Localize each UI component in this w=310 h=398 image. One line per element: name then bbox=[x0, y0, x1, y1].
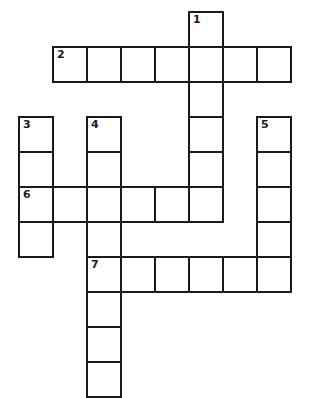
crossword-cell[interactable] bbox=[86, 326, 122, 363]
crossword-cell[interactable] bbox=[120, 186, 156, 223]
crossword-cell[interactable] bbox=[188, 186, 224, 223]
crossword-cell[interactable] bbox=[222, 256, 258, 293]
crossword-cell[interactable]: 2 bbox=[52, 46, 88, 83]
crossword-cell[interactable] bbox=[256, 151, 292, 188]
crossword-cell[interactable]: 3 bbox=[18, 116, 54, 153]
crossword-cell[interactable] bbox=[256, 221, 292, 258]
crossword-cell[interactable] bbox=[86, 151, 122, 188]
crossword-cell[interactable]: 6 bbox=[18, 186, 54, 223]
crossword-cell[interactable]: 4 bbox=[86, 116, 122, 153]
crossword-cell[interactable] bbox=[18, 221, 54, 258]
crossword-cell[interactable] bbox=[154, 46, 190, 83]
crossword-cell[interactable] bbox=[52, 186, 88, 223]
crossword-cell[interactable]: 1 bbox=[188, 11, 224, 48]
crossword-cell[interactable] bbox=[188, 151, 224, 188]
clue-number: 5 bbox=[261, 119, 269, 131]
crossword-cell[interactable] bbox=[188, 116, 224, 153]
crossword-cell[interactable] bbox=[154, 256, 190, 293]
clue-number: 6 bbox=[23, 189, 31, 201]
crossword-cell[interactable] bbox=[86, 186, 122, 223]
crossword-cell[interactable] bbox=[188, 256, 224, 293]
crossword-cell[interactable] bbox=[188, 81, 224, 118]
clue-number: 1 bbox=[193, 14, 201, 26]
crossword-cell[interactable] bbox=[120, 256, 156, 293]
crossword-cell[interactable] bbox=[256, 46, 292, 83]
crossword-cell[interactable] bbox=[86, 46, 122, 83]
crossword-cell[interactable]: 7 bbox=[86, 256, 122, 293]
crossword-cell[interactable] bbox=[256, 186, 292, 223]
crossword-cell[interactable]: 5 bbox=[256, 116, 292, 153]
crossword-cell[interactable] bbox=[120, 46, 156, 83]
crossword-cell[interactable] bbox=[222, 46, 258, 83]
crossword-cell[interactable] bbox=[86, 291, 122, 328]
clue-number: 4 bbox=[91, 119, 99, 131]
crossword-cell[interactable] bbox=[154, 186, 190, 223]
crossword-cell[interactable] bbox=[188, 46, 224, 83]
clue-number: 7 bbox=[91, 259, 99, 271]
crossword-cell[interactable] bbox=[18, 151, 54, 188]
clue-number: 2 bbox=[57, 49, 65, 61]
crossword-cell[interactable] bbox=[86, 221, 122, 258]
crossword-cell[interactable] bbox=[86, 361, 122, 398]
crossword-cell[interactable] bbox=[256, 256, 292, 293]
clue-number: 3 bbox=[23, 119, 31, 131]
